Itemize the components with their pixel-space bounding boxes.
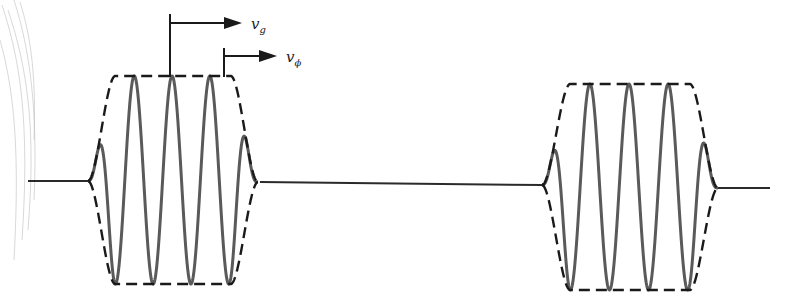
carrier-wave-right (542, 84, 718, 290)
phase-velocity-arrowhead (259, 50, 277, 62)
phase-velocity-label: vϕ (286, 48, 301, 68)
group-velocity-arrowhead (224, 17, 242, 29)
right-packet (542, 84, 718, 290)
wave-packet-diagram: vg vϕ (0, 0, 791, 298)
scan-texture (0, 0, 35, 260)
carrier-wave-left (88, 76, 258, 284)
group-velocity-subscript: g (259, 24, 265, 35)
baseline-middle (260, 182, 542, 185)
group-velocity-marker: vg (170, 14, 266, 77)
phase-velocity-subscript: ϕ (294, 57, 301, 68)
envelope-left-upper (88, 76, 258, 182)
left-packet (88, 76, 258, 284)
envelope-right-upper (542, 84, 718, 188)
phase-velocity-marker: vϕ (224, 48, 301, 77)
group-velocity-label: vg (251, 15, 266, 35)
